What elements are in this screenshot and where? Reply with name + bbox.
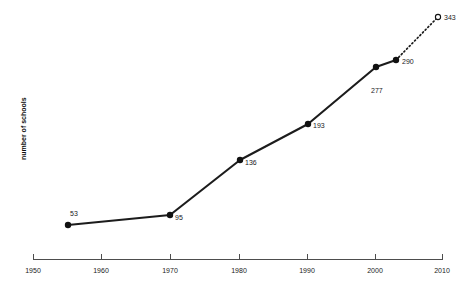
x-tick-label-2010: 2010 xyxy=(434,267,450,274)
line-chart: number of schools 1950 1960 1970 1980 19… xyxy=(0,0,472,291)
x-axis-ticks xyxy=(34,254,443,259)
data-point-marker[interactable] xyxy=(393,57,399,63)
data-point-marker-projected[interactable] xyxy=(435,14,440,19)
data-point-value-label: 277 xyxy=(371,87,383,94)
series-segment xyxy=(308,67,376,124)
x-tick-label-1950: 1950 xyxy=(25,267,41,274)
data-point-value-label: 290 xyxy=(402,58,414,65)
data-point-value-label: 95 xyxy=(175,214,183,221)
x-tick-label-1960: 1960 xyxy=(93,267,109,274)
x-axis-tick-labels: 1950 1960 1970 1980 1990 2000 2010 xyxy=(25,267,450,274)
data-point-value-label: 193 xyxy=(313,122,325,129)
series-segment xyxy=(68,215,170,225)
series-segment xyxy=(240,124,308,160)
series-layer: 5395136193277290343 xyxy=(65,14,456,228)
x-tick-label-1980: 1980 xyxy=(231,267,247,274)
data-point-value-label: 136 xyxy=(245,159,257,166)
data-point-marker[interactable] xyxy=(167,212,173,218)
chart-page: number of schools 1950 1960 1970 1980 19… xyxy=(0,0,472,291)
data-point-value-label: 343 xyxy=(444,14,456,21)
data-point-marker[interactable] xyxy=(65,222,71,228)
x-tick-label-1990: 1990 xyxy=(299,267,315,274)
y-axis-title: number of schools xyxy=(20,97,27,160)
data-point-marker[interactable] xyxy=(373,64,379,70)
data-point-value-label: 53 xyxy=(70,210,78,217)
series-segment xyxy=(170,160,240,215)
x-tick-label-1970: 1970 xyxy=(162,267,178,274)
data-point-marker[interactable] xyxy=(237,157,243,163)
data-point-marker[interactable] xyxy=(305,121,311,127)
x-tick-label-2000: 2000 xyxy=(367,267,383,274)
series-segment-projected xyxy=(396,17,438,60)
